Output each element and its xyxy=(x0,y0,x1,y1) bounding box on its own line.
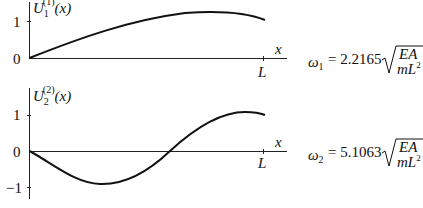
plot1-L-label: L xyxy=(257,64,266,80)
omega1-value: = 2.2165 xyxy=(328,51,381,67)
plot2-mode-curve xyxy=(30,112,266,184)
plot2-y-label: U2(2)(x) xyxy=(33,84,71,107)
plot2-tick-label-1: 1 xyxy=(13,107,21,123)
omega1-symbol: ω1 xyxy=(308,54,324,72)
omega2-value: = 5.1063 xyxy=(328,144,381,160)
plot2-x-label: x xyxy=(274,134,282,150)
plot1-tick-label-0: 0 xyxy=(13,51,21,67)
plot2-tick-label-0: 0 xyxy=(13,144,21,160)
omega2-symbol: ω2 xyxy=(308,147,324,165)
plot1-y-label: U1(1)(x) xyxy=(33,0,71,19)
plot1-mode-curve xyxy=(30,12,266,58)
omega1-formula: ω1 = 2.2165 EA mL2 xyxy=(308,46,423,77)
omega1-frac-den: mL2 xyxy=(397,60,421,77)
omega2-frac-num: EA xyxy=(398,139,418,155)
omega2-formula: ω2 = 5.1063 EA mL2 xyxy=(308,139,423,170)
plot-2: 1 0 −1 x L U2(2)(x) xyxy=(6,84,287,199)
plot1-tick-label-1: 1 xyxy=(13,14,21,30)
mode-shape-plots: 1 0 x L U1(1)(x) 1 0 −1 x L U2(2)(x) ω1 … xyxy=(0,0,423,208)
plot-1: 1 0 x L U1(1)(x) xyxy=(13,0,287,80)
plot1-x-label: x xyxy=(274,41,282,57)
omega1-frac-num: EA xyxy=(398,46,418,62)
omega2-frac-den: mL2 xyxy=(397,153,421,170)
plot2-tick-label-m1: −1 xyxy=(6,180,22,196)
plot2-L-label: L xyxy=(257,155,266,171)
